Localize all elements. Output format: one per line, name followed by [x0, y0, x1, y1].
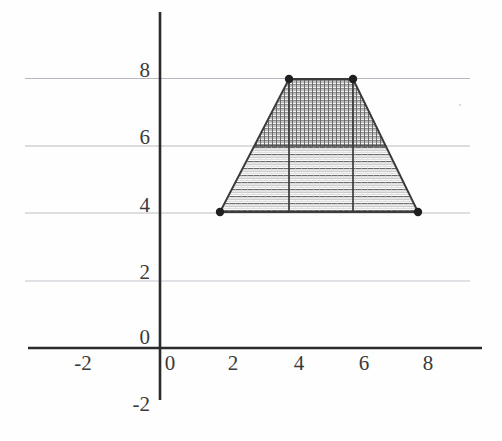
x-tick-label-0: 0 — [165, 353, 176, 374]
scan-speck — [459, 104, 461, 106]
y-tick-label--2: -2 — [110, 394, 150, 415]
x-tick-label-2: 2 — [228, 353, 239, 374]
y-tick-label-4: 4 — [110, 195, 150, 216]
graph-figure: -2 0 2 4 6 8 8 6 4 2 0 -2 — [0, 0, 502, 441]
y-tick-label-0: 0 — [110, 327, 150, 348]
upper-region-fill — [200, 70, 450, 146]
vertex-top-right — [349, 75, 357, 83]
x-tick-label-8: 8 — [423, 353, 434, 374]
vertex-bottom-right — [414, 208, 422, 216]
trapezoid-shading — [200, 70, 450, 216]
vertex-bottom-left — [216, 208, 224, 216]
y-tick-label-8: 8 — [110, 60, 150, 81]
x-tick-label-4: 4 — [294, 353, 305, 374]
lower-region-fill — [200, 146, 450, 216]
y-tick-label-2: 2 — [110, 262, 150, 283]
y-tick-label-6: 6 — [110, 127, 150, 148]
x-tick-label-6: 6 — [359, 353, 370, 374]
vertex-top-left — [285, 75, 293, 83]
x-tick-label--2: -2 — [74, 353, 92, 374]
